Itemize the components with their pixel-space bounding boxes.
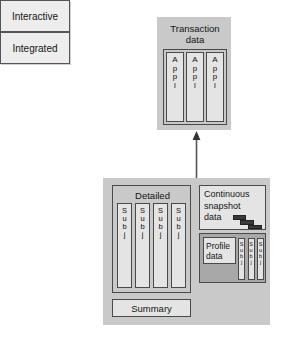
profile-title-line-1: Profile <box>206 241 235 251</box>
subject-column: S u b j <box>117 203 132 288</box>
subj-letter: j <box>260 259 261 265</box>
subject-column: S u b j <box>171 203 186 288</box>
detailed-title: Detailed <box>113 189 192 201</box>
subject-column: S u b j <box>135 203 150 288</box>
profile-subject-columns: S u b j S u b j S u b j <box>238 238 264 280</box>
profile-title-line-2: data <box>206 251 235 261</box>
integrated-data-panel: Detailed S u b j S u b j S u b <box>103 178 270 325</box>
application-column: A p p l <box>166 52 184 122</box>
continuous-snapshot-data-box: Continuous snapshot data <box>199 185 266 230</box>
subj-letter: j <box>124 231 126 239</box>
profile-data-title: Profile data <box>203 237 236 264</box>
subj-letter: j <box>241 259 242 265</box>
subject-column: S u b j <box>248 238 255 280</box>
appl-letter: l <box>194 82 196 91</box>
category-label-integrated: Integrated <box>0 32 70 64</box>
subject-column: S u b j <box>257 238 264 280</box>
application-column: A p p l <box>206 52 224 122</box>
profile-data-box: Profile data S u b j S u b j S u <box>199 233 266 283</box>
subject-column: S u b j <box>238 238 245 280</box>
upward-arrow-icon <box>192 131 201 179</box>
subj-letter: j <box>160 231 162 239</box>
application-column: A p p l <box>186 52 204 122</box>
detailed-box: Detailed S u b j S u b j S u b <box>112 185 191 293</box>
subj-letter: j <box>178 231 180 239</box>
appl-letter: l <box>214 82 216 91</box>
subj-letter: j <box>250 259 251 265</box>
category-label-interactive: Interactive <box>0 0 70 32</box>
application-columns-group: A p p l A p p l A p p l <box>163 49 227 125</box>
snapshot-marker-icon <box>248 225 262 229</box>
snapshot-title-line-1: Continuous <box>204 189 264 201</box>
transaction-data-title-line-2: data <box>186 34 205 45</box>
subj-letter: j <box>142 231 144 239</box>
transaction-data-title-line-1: Transaction <box>170 23 219 34</box>
appl-letter: l <box>174 82 176 91</box>
summary-box: Summary <box>112 299 191 317</box>
subject-column: S u b j <box>153 203 168 288</box>
transaction-data-title: Transaction data <box>158 21 232 47</box>
diagram-canvas: Interactive Integrated Transaction data … <box>0 0 291 338</box>
snapshot-title-line-2: snapshot <box>204 201 264 213</box>
summary-title: Summary <box>131 303 172 314</box>
transaction-data-panel: Transaction data A p p l A p p l A p p l <box>157 17 231 130</box>
detailed-subject-columns: S u b j S u b j S u b j S <box>117 203 186 288</box>
category-label-integrated-text: Integrated <box>12 43 57 54</box>
category-label-interactive-text: Interactive <box>12 11 58 22</box>
